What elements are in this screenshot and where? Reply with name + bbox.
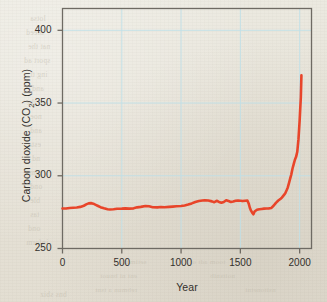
y-axis-title-pre: Carbon dioxide (CO — [20, 108, 32, 203]
plot-border — [63, 9, 312, 249]
gridlines — [63, 9, 312, 249]
x-axis-tick-label: 2000 — [280, 257, 320, 268]
co2-line-chart: 250300350400 0500100015002000 Carbon dio… — [0, 0, 327, 302]
x-axis-tick-label: 1000 — [161, 257, 201, 268]
y-axis-tick-label: 400 — [22, 24, 52, 35]
x-axis-tick-label: 500 — [102, 257, 142, 268]
x-axis-tick-label: 1500 — [220, 257, 260, 268]
axis-tick-marks — [58, 30, 300, 253]
y-axis-title-post: ) (ppm) — [20, 69, 32, 104]
plot-frame — [63, 9, 312, 249]
y-axis-title-subscript: 2 — [27, 103, 36, 107]
data-series-lines — [63, 75, 302, 214]
series-line — [63, 75, 302, 214]
y-axis-tick-label: 250 — [22, 242, 52, 253]
x-axis-title: Year — [62, 281, 312, 293]
x-axis-tick-label: 0 — [43, 257, 83, 268]
y-axis-title: Carbon dioxide (CO2) (ppm) — [20, 46, 35, 226]
